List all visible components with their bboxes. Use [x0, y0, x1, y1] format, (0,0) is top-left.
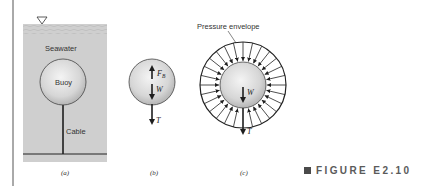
pressure-arrow	[253, 46, 261, 63]
panel-a-label: (a)	[61, 169, 70, 177]
pressure-envelope-label: Pressure envelope	[197, 22, 260, 31]
buoy-label: Buoy	[55, 78, 72, 87]
panel-c: Pressure envelope W T (c)	[197, 22, 286, 177]
caption-square-icon	[304, 167, 311, 174]
pressure-arrow	[204, 66, 221, 74]
buoy-free-body	[129, 59, 175, 105]
free-surface-triangle-icon	[37, 17, 47, 24]
pressure-arrow	[224, 46, 232, 63]
pressure-envelope-leader	[228, 31, 236, 43]
pressure-arrow	[265, 95, 282, 103]
pressure-arrow	[266, 90, 285, 94]
pressure-arrow	[248, 108, 252, 127]
pressure-arrow	[209, 100, 224, 112]
pressure-arrow	[262, 100, 277, 112]
pressure-arrow	[201, 90, 220, 94]
pressure-arrow	[201, 75, 220, 79]
water-surface-ripples	[23, 24, 107, 34]
pressure-arrow	[233, 108, 237, 127]
buoy-free-body-figure: Seawater Buoy Cable (a) FB W T (b) Press…	[0, 0, 439, 186]
pressure-arrow	[258, 104, 270, 119]
buoy-with-pressure	[220, 62, 266, 108]
pressure-arrow	[216, 51, 228, 66]
pressure-arrow	[204, 95, 221, 103]
pressure-arrow	[233, 43, 237, 62]
pressure-arrow	[209, 58, 224, 70]
tension-label-c: T	[247, 127, 252, 136]
pressure-arrow	[253, 107, 261, 124]
pressure-arrow	[266, 75, 285, 79]
pressure-arrow	[262, 58, 277, 70]
pressure-arrow	[216, 104, 228, 119]
tension-label: T	[156, 116, 161, 125]
cable-label: Cable	[66, 127, 86, 136]
panel-b: FB W T (b)	[129, 59, 175, 177]
figure-number: FIGURE E2.10	[316, 165, 412, 176]
panel-b-label: (b)	[150, 169, 159, 177]
figure-caption: FIGURE E2.10	[304, 165, 412, 176]
pressure-arrow	[248, 43, 252, 62]
pressure-arrow	[258, 51, 270, 66]
pressure-arrow	[224, 107, 232, 124]
pressure-arrow	[265, 66, 282, 74]
panel-a: Seawater Buoy Cable (a)	[23, 17, 107, 177]
panel-c-label: (c)	[240, 169, 248, 177]
seawater-label: Seawater	[45, 44, 77, 53]
